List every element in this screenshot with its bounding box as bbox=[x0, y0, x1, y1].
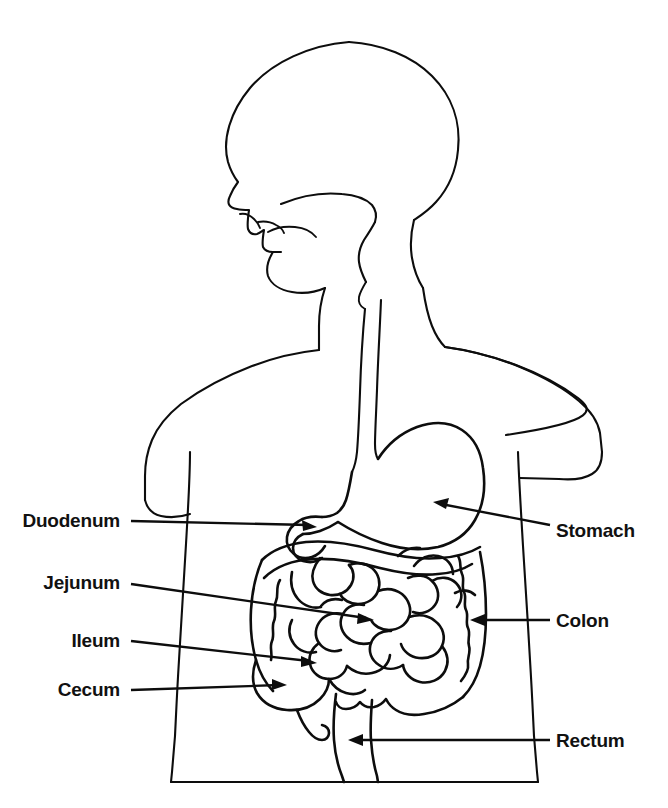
occiput-neck-line bbox=[411, 220, 423, 288]
body-outline-group bbox=[145, 42, 602, 782]
soft-palate-uvula bbox=[359, 222, 375, 282]
tongue-outline bbox=[268, 227, 316, 237]
digestive-system-diagram: Duodenum Jejunum Ileum Cecum Stomach Col… bbox=[0, 0, 668, 808]
label-colon-text: Colon bbox=[556, 610, 609, 631]
appendix bbox=[297, 710, 329, 740]
torso-left-flank bbox=[175, 452, 190, 736]
colon-ascending-inner bbox=[458, 556, 470, 681]
duodenum-arrowhead bbox=[302, 520, 317, 531]
label-ileum-text: Ileum bbox=[71, 630, 120, 651]
label-stomach-text: Stomach bbox=[556, 520, 635, 541]
colon-descending-inner bbox=[271, 580, 280, 660]
pharynx-wall bbox=[349, 42, 459, 220]
hip-flare-left bbox=[171, 736, 175, 782]
colon-arrowhead bbox=[470, 614, 485, 626]
cecum-leader-line bbox=[131, 685, 279, 690]
stomach-lesser-curvature bbox=[322, 472, 352, 517]
label-stomach: Stomach bbox=[556, 521, 635, 540]
neck-front-line bbox=[319, 288, 325, 350]
label-jejunum: Jejunum bbox=[0, 573, 120, 592]
right-armpit-torso bbox=[520, 452, 602, 479]
stomach-greater-curvature bbox=[338, 423, 484, 549]
neck-back-line bbox=[423, 288, 445, 347]
label-cecum: Cecum bbox=[0, 680, 120, 699]
colon-transverse-lower bbox=[264, 559, 472, 578]
chin-jaw-line bbox=[267, 252, 325, 293]
small-intestine-coil-14 bbox=[321, 599, 342, 606]
digestive-tract-group bbox=[251, 300, 486, 782]
small-intestine-coil-5 bbox=[403, 646, 447, 683]
torso-right-flank bbox=[518, 452, 534, 736]
cecum-arrowhead bbox=[272, 679, 287, 690]
duodenum-leader-line bbox=[131, 521, 309, 525]
stomach-leader-line bbox=[441, 504, 550, 525]
esophagus-right-wall bbox=[375, 300, 381, 459]
small-intestine-coil-7 bbox=[341, 604, 371, 643]
rectum-arrowhead bbox=[348, 734, 363, 746]
small-intestine-coil-2 bbox=[340, 563, 379, 604]
esophagus-left-wall bbox=[352, 309, 365, 472]
small-intestine-coil-9 bbox=[309, 643, 347, 679]
small-intestine-coil-1 bbox=[312, 558, 353, 595]
left-shoulder-arm-outline bbox=[145, 350, 319, 500]
left-armpit-torso bbox=[145, 500, 190, 517]
small-intestine-coil-8 bbox=[316, 613, 343, 651]
small-intestine-coil-16 bbox=[290, 620, 316, 653]
ileum-leader-line bbox=[131, 641, 309, 661]
head-profile-outline bbox=[226, 42, 349, 252]
label-rectum: Rectum bbox=[556, 731, 624, 750]
label-rectum-text: Rectum bbox=[556, 730, 624, 751]
ileocecal-junction bbox=[329, 679, 365, 694]
epiglottis-notch bbox=[359, 282, 366, 309]
label-ileum: Ileum bbox=[0, 631, 120, 650]
label-duodenum-text: Duodenum bbox=[22, 510, 120, 531]
label-cecum-text: Cecum bbox=[58, 679, 120, 700]
small-intestine-coil-10 bbox=[347, 655, 390, 674]
sigmoid-colon bbox=[336, 697, 463, 715]
label-duodenum: Duodenum bbox=[0, 511, 120, 530]
label-jejunum-text: Jejunum bbox=[43, 572, 120, 593]
hip-flare-right bbox=[534, 736, 538, 782]
label-colon: Colon bbox=[556, 611, 609, 630]
palate-outline bbox=[281, 193, 376, 222]
stomach-arrowhead bbox=[433, 498, 449, 509]
nose-nostril-detail bbox=[240, 214, 260, 228]
